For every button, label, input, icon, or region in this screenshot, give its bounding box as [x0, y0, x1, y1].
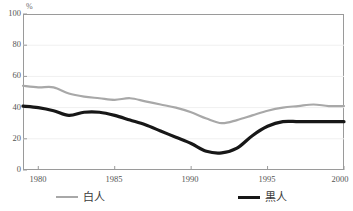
legend-swatch-icon: [56, 196, 78, 198]
x-tick-label: 1995: [247, 174, 287, 184]
legend-item-black: 黒人: [238, 189, 287, 205]
plot-area: [23, 14, 344, 170]
legend-label: 黒人: [265, 191, 287, 204]
gridlines: [23, 45, 344, 139]
y-axis-tick-marks: [23, 14, 27, 170]
legend-label: 白人: [83, 191, 105, 204]
x-tick-label: 1990: [170, 174, 210, 184]
legend-swatch-icon: [238, 196, 260, 199]
x-tick-label: 2000: [320, 174, 353, 184]
series-line-white: [23, 86, 344, 123]
legend-item-white: 白人: [56, 189, 105, 205]
legend: 白人 黒人: [0, 189, 353, 209]
x-tick-label: 1980: [18, 174, 58, 184]
x-tick-label: 1985: [94, 174, 134, 184]
x-axis-tick-marks: [38, 166, 344, 170]
line-chart: % 100 80 60 40 20 0 1980 1985 1990 1995 …: [0, 0, 353, 211]
series-line-black: [23, 106, 344, 153]
